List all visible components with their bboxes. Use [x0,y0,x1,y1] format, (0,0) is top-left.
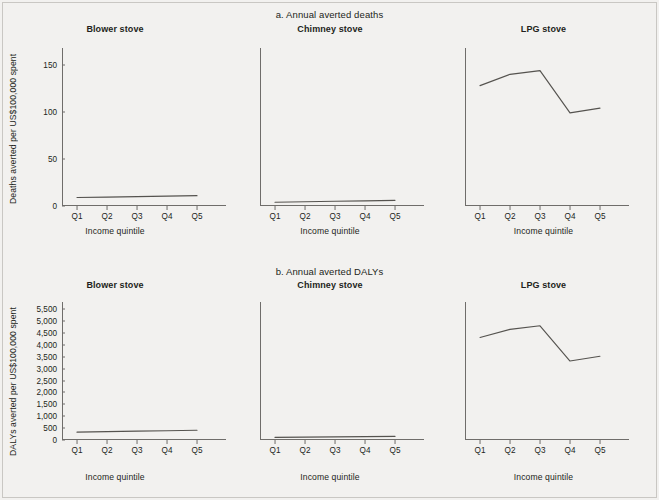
x-tick-mark [305,206,306,210]
x-tick-mark [570,206,571,210]
section-annual-averted-dalys: b. Annual averted DALYs DALYs averted pe… [0,258,659,500]
y-axis-tick: 1,000 [37,412,63,421]
x-axis-tick-q3: Q3 [132,440,143,455]
x-axis-tick-q2: Q2 [300,206,311,221]
x-tick-mark [510,440,511,444]
x-axis-tick-q1: Q1 [270,440,281,455]
x-tick-mark [480,206,481,210]
y-axis-tick: 50 [48,154,62,163]
plot-area-b-lpg: Q1Q2Q3Q4Q5 [465,302,615,440]
x-axis-tick-q4: Q4 [162,440,173,455]
data-series-line [260,302,410,440]
panel-a-chimney-x-label: Income quintile [215,226,445,236]
y-axis-tick: 1,500 [37,400,63,409]
x-tick-mark [335,206,336,210]
y-axis-tick: 100 [43,107,62,116]
panel-a-chimney-stove: Chimney stove Q1Q2Q3Q4Q5 Income quintile [215,0,445,258]
x-axis-tick-q2: Q2 [505,440,516,455]
plot-area-a-lpg: Q1Q2Q3Q4Q5 [465,48,615,206]
x-axis-tick-q2: Q2 [505,206,516,221]
x-tick-mark [305,440,306,444]
x-axis-tick-q1: Q1 [475,440,486,455]
x-axis-tick-q1: Q1 [72,440,83,455]
x-tick-mark [365,440,366,444]
x-axis-tick-q2: Q2 [102,440,113,455]
plot-area-b-chimney: Q1Q2Q3Q4Q5 [260,302,410,440]
y-axis-tick: 5,000 [37,317,63,326]
y-axis-tick: 2,000 [37,388,63,397]
panel-b-chimney-stove: Chimney stove Q1Q2Q3Q4Q5 Income quintile [215,258,445,500]
panel-a-lpg-x-label: Income quintile [428,226,659,236]
x-tick-mark [395,440,396,444]
y-axis-tick: 500 [43,424,62,433]
data-series-line [465,48,615,206]
y-axis-tick: 0 [52,202,62,211]
x-axis-tick-q5: Q5 [390,440,401,455]
x-tick-mark [600,206,601,210]
panel-b-blower-title: Blower stove [0,280,230,290]
plot-area-a-blower: 050100150Q1Q2Q3Q4Q5 [62,48,212,206]
x-tick-mark [167,206,168,210]
figure-root: a. Annual averted deaths Deaths averted … [0,0,659,500]
data-series-line [260,48,410,206]
x-tick-mark [395,206,396,210]
x-axis-tick-q2: Q2 [102,206,113,221]
x-tick-mark [197,206,198,210]
x-axis-tick-q4: Q4 [360,440,371,455]
x-tick-mark [137,440,138,444]
plot-area-b-blower: 05001,0001,5002,0002,5003,0003,5004,0004… [62,302,212,440]
x-axis-tick-q1: Q1 [475,206,486,221]
data-series-line [465,302,615,440]
x-axis-tick-q5: Q5 [192,206,203,221]
panel-b-lpg-x-label: Income quintile [428,472,659,482]
x-axis-tick-q2: Q2 [300,440,311,455]
y-axis-tick: 3,500 [37,352,63,361]
panel-b-chimney-x-label: Income quintile [215,472,445,482]
panel-a-lpg-title: LPG stove [428,24,659,34]
panel-a-chimney-title: Chimney stove [215,24,445,34]
x-tick-mark [365,206,366,210]
x-tick-mark [570,440,571,444]
x-axis-tick-q5: Q5 [595,206,606,221]
x-axis-tick-q1: Q1 [72,206,83,221]
panel-b-blower-x-label: Income quintile [0,472,230,482]
panel-b-lpg-stove: LPG stove Q1Q2Q3Q4Q5 Income quintile [428,258,659,500]
x-tick-mark [77,440,78,444]
x-axis-tick-q3: Q3 [535,206,546,221]
y-axis-tick: 4,000 [37,340,63,349]
x-axis-tick-q3: Q3 [132,206,143,221]
x-tick-mark [275,440,276,444]
y-axis-tick: 3,000 [37,364,63,373]
x-axis-tick-q3: Q3 [330,206,341,221]
panel-b-lpg-title: LPG stove [428,280,659,290]
x-axis-tick-q4: Q4 [565,440,576,455]
x-tick-mark [510,206,511,210]
panel-a-lpg-stove: LPG stove Q1Q2Q3Q4Q5 Income quintile [428,0,659,258]
x-axis-tick-q5: Q5 [390,206,401,221]
section-annual-averted-deaths: a. Annual averted deaths Deaths averted … [0,0,659,258]
y-axis-tick: 0 [52,436,62,445]
x-tick-mark [197,440,198,444]
x-tick-mark [137,206,138,210]
y-axis-tick: 150 [43,60,62,69]
x-tick-mark [540,206,541,210]
x-axis-tick-q5: Q5 [595,440,606,455]
data-series-line [62,302,212,440]
x-axis-tick-q3: Q3 [535,440,546,455]
x-axis-tick-q1: Q1 [270,206,281,221]
panel-b-chimney-title: Chimney stove [215,280,445,290]
x-tick-mark [480,440,481,444]
y-axis-tick: 4,500 [37,328,63,337]
panel-a-blower-title: Blower stove [0,24,230,34]
x-axis-tick-q4: Q4 [162,206,173,221]
x-axis-tick-q4: Q4 [565,206,576,221]
y-axis-tick: 2,500 [37,376,63,385]
x-axis-tick-q5: Q5 [192,440,203,455]
panel-a-blower-x-label: Income quintile [0,226,230,236]
x-tick-mark [540,440,541,444]
x-tick-mark [275,206,276,210]
x-axis-tick-q4: Q4 [360,206,371,221]
x-tick-mark [107,440,108,444]
x-tick-mark [107,206,108,210]
panel-b-blower-stove: Blower stove 05001,0001,5002,0002,5003,0… [0,258,230,500]
